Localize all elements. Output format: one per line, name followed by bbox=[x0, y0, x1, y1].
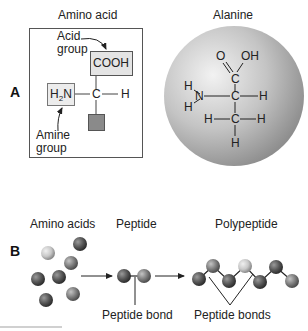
polypeptide-ball bbox=[285, 274, 299, 288]
polypeptide-ball bbox=[206, 259, 220, 273]
peptide-ball bbox=[117, 269, 131, 283]
panel-a-letter: A bbox=[10, 84, 20, 100]
atom-c-carboxyl: C bbox=[231, 72, 240, 86]
diagram-graphics bbox=[0, 0, 308, 331]
amino-acid-ball bbox=[39, 293, 53, 307]
amino-acid-ball bbox=[73, 237, 87, 251]
side-chain-box bbox=[89, 115, 105, 131]
atom-h-methyl-left: H bbox=[204, 112, 213, 126]
atom-n: N bbox=[195, 89, 204, 103]
atom-h-n-bottom: H bbox=[184, 100, 193, 114]
amine-group-label-line1: Amine bbox=[36, 128, 70, 142]
amino-acids-label: Amino acids bbox=[30, 217, 95, 231]
atom-o: O bbox=[216, 49, 225, 63]
atom-h-methyl-right: H bbox=[257, 112, 266, 126]
atom-c-alpha: C bbox=[231, 89, 240, 103]
peptide-ball bbox=[137, 269, 151, 283]
side-hydrogen: H bbox=[121, 87, 130, 101]
panel-b-letter: B bbox=[10, 243, 20, 259]
amino-acid-title: Amino acid bbox=[58, 8, 117, 22]
amine-group-label-line2: group bbox=[36, 141, 67, 155]
peptide-bonds-label: Peptide bonds bbox=[194, 308, 271, 322]
atom-h-alpha: H bbox=[259, 89, 268, 103]
atom-oh: OH bbox=[241, 49, 259, 63]
polypeptide-ball bbox=[192, 272, 206, 286]
amino-acid-ball bbox=[66, 287, 80, 301]
atom-c-methyl: C bbox=[231, 112, 240, 126]
polypeptide-ball bbox=[238, 259, 252, 273]
polypeptide-ball bbox=[222, 274, 236, 288]
alanine-title: Alanine bbox=[213, 8, 253, 22]
peptide-bond-label: Peptide bond bbox=[102, 308, 173, 322]
cooh-formula: COOH bbox=[93, 56, 129, 70]
atom-h-methyl-bottom: H bbox=[231, 136, 240, 150]
acid-group-label-line1: Acid bbox=[57, 29, 80, 43]
amino-acid-ball bbox=[64, 256, 78, 270]
polypeptide-label: Polypeptide bbox=[215, 217, 278, 231]
amino-acid-ball bbox=[31, 272, 45, 286]
central-carbon: C bbox=[92, 87, 101, 101]
atom-h-n-top: H bbox=[184, 79, 193, 93]
polypeptide-ball bbox=[269, 260, 283, 274]
polypeptide-ball bbox=[253, 275, 267, 289]
amino-acid-ball bbox=[52, 270, 66, 284]
peptide-label: Peptide bbox=[116, 217, 157, 231]
acid-group-label-line2: group bbox=[57, 42, 88, 56]
h2n-formula: H2N bbox=[50, 87, 72, 103]
amino-acid-ball bbox=[41, 246, 55, 260]
